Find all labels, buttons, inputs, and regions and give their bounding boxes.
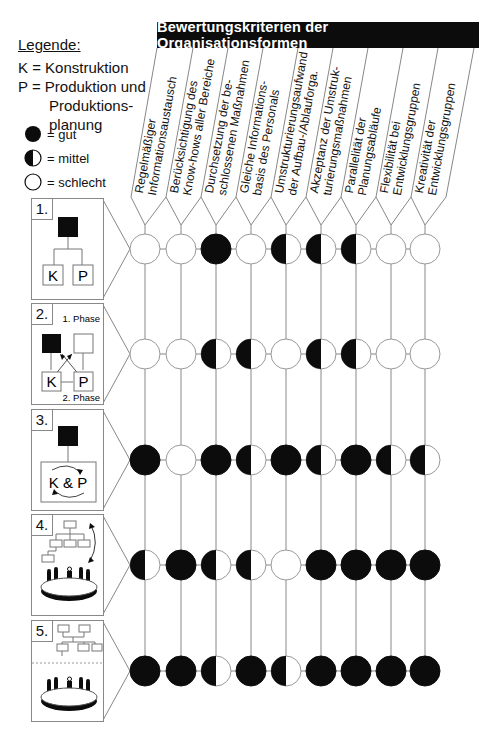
- full-circle-icon: [201, 445, 231, 475]
- half-circle-icon: [306, 339, 336, 369]
- half-circle-icon: [201, 550, 231, 580]
- org-chart-team-icon: [32, 515, 103, 615]
- half-circle-icon: [341, 339, 371, 369]
- full-circle-icon: [130, 656, 160, 686]
- svg-text:P: P: [78, 267, 88, 284]
- svg-text:2. Phase: 2. Phase: [63, 392, 101, 403]
- full-circle-icon: [306, 550, 336, 580]
- full-circle-icon: [271, 445, 301, 475]
- empty-circle-icon: [236, 234, 266, 264]
- integrated-diagram-icon: K & P: [32, 410, 103, 510]
- empty-circle-icon: [410, 339, 440, 369]
- half-circle-icon: [201, 656, 231, 686]
- org-chart-over-team-icon: [32, 621, 103, 721]
- half-circle-icon: [201, 339, 231, 369]
- full-circle-icon: [376, 550, 406, 580]
- full-circle-icon: [341, 656, 371, 686]
- half-circle-icon: [341, 234, 371, 264]
- full-circle-icon: [166, 550, 196, 580]
- full-circle-icon: [166, 656, 196, 686]
- org-form-5: 5.: [31, 620, 104, 722]
- half-circle-icon: [236, 445, 266, 475]
- full-circle-icon: [130, 445, 160, 475]
- svg-text:P: P: [78, 373, 88, 390]
- empty-circle-icon: [271, 339, 301, 369]
- empty-circle-icon: [166, 234, 196, 264]
- empty-circle-icon: [130, 234, 160, 264]
- svg-text:K & P: K & P: [49, 474, 87, 491]
- full-circle-icon: [410, 656, 440, 686]
- full-circle-icon: [306, 656, 336, 686]
- empty-circle-icon: [271, 550, 301, 580]
- svg-text:K: K: [46, 373, 56, 390]
- empty-circle-icon: [410, 234, 440, 264]
- half-circle-icon: [376, 445, 406, 475]
- half-circle-icon: [306, 234, 336, 264]
- org-form-1: 1. K P: [31, 198, 104, 300]
- full-circle-icon: [341, 550, 371, 580]
- full-circle-icon: [236, 656, 266, 686]
- svg-text:K: K: [48, 267, 58, 284]
- empty-circle-icon: [376, 234, 406, 264]
- full-circle-icon: [410, 550, 440, 580]
- hierarchy-diagram-icon: K P: [32, 199, 103, 299]
- empty-circle-icon: [166, 445, 196, 475]
- empty-circle-icon: [166, 339, 196, 369]
- svg-text:1. Phase: 1. Phase: [63, 313, 101, 324]
- half-circle-icon: [236, 339, 266, 369]
- empty-circle-icon: [130, 339, 160, 369]
- phased-diagram-icon: 1. Phase K P 2. Phase: [32, 304, 103, 404]
- org-form-4: 4.: [31, 514, 104, 616]
- full-circle-icon: [341, 445, 371, 475]
- half-circle-icon: [130, 550, 160, 580]
- full-circle-icon: [201, 234, 231, 264]
- half-circle-icon: [236, 550, 266, 580]
- half-circle-icon: [306, 445, 336, 475]
- org-form-3: 3. K & P: [31, 409, 104, 511]
- half-circle-icon: [410, 445, 440, 475]
- empty-circle-icon: [376, 339, 406, 369]
- org-form-2: 2. 1. Phase K P 2. Phase: [31, 303, 104, 405]
- full-circle-icon: [376, 656, 406, 686]
- half-circle-icon: [271, 234, 301, 264]
- half-circle-icon: [271, 656, 301, 686]
